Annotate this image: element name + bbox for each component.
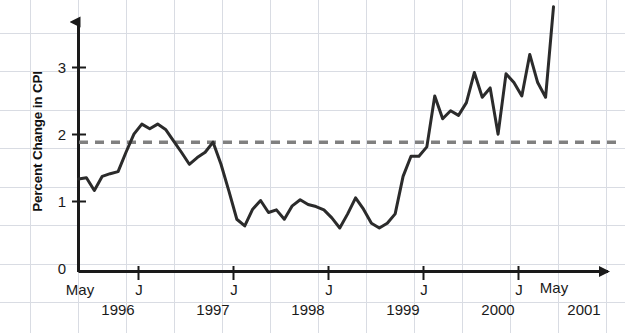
x-tick-label-jan-2000: J bbox=[413, 281, 435, 298]
x-tick-label-may-end: May bbox=[531, 279, 577, 296]
x-tick-label-may-start: May bbox=[57, 281, 103, 298]
x-year-label-2001: 2001 bbox=[549, 301, 619, 318]
x-year-label-1996: 1996 bbox=[83, 301, 153, 318]
x-year-label-1998: 1998 bbox=[273, 301, 343, 318]
x-year-label-1997: 1997 bbox=[178, 301, 248, 318]
x-tick-label-jan-2001: J bbox=[508, 281, 530, 298]
x-tick-label-jan-1997: J bbox=[128, 281, 150, 298]
x-tick-label-jan-1998: J bbox=[223, 281, 245, 298]
y-tick-label-3: 3 bbox=[44, 59, 66, 76]
cpi-series-line bbox=[79, 7, 554, 228]
y-tick-label-2: 2 bbox=[44, 126, 66, 143]
y-tick-label-0: 0 bbox=[44, 260, 66, 277]
y-tick-label-1: 1 bbox=[44, 193, 66, 210]
x-year-label-2000: 2000 bbox=[463, 301, 533, 318]
y-axis-title: Percent Change in CPI bbox=[30, 42, 45, 242]
cpi-line-chart: Percent Change in CPI 3 2 1 0 May J J J … bbox=[0, 0, 625, 333]
x-tick-label-jan-1999: J bbox=[318, 281, 340, 298]
x-year-label-1999: 1999 bbox=[368, 301, 438, 318]
